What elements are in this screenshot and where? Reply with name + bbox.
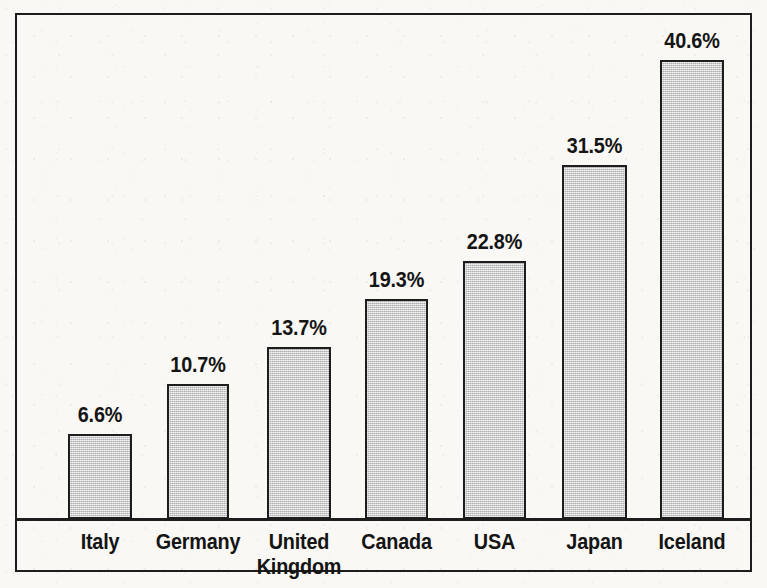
category-label-iceland: Iceland [631,529,753,554]
bar-value-label: 10.7% [143,354,253,376]
bar-value-label: 13.7% [243,317,355,339]
bar-germany [167,384,229,519]
x-axis-line [15,518,752,521]
bar-japan [562,165,627,519]
bar-united-kingdom [267,347,331,519]
bar-value-label: 19.3% [341,269,452,291]
bar-value-label: 22.8% [439,231,550,253]
category-label-line2: Kingdom [238,554,360,579]
chart-page: ItalyGermanyUnitedKingdomCanadaUSAJapanI… [0,0,767,588]
bar-italy [68,434,132,519]
bar-canada [365,299,428,519]
bar-value-label: 31.5% [538,135,651,157]
bar-iceland [660,60,724,519]
bar-value-label: 40.6% [636,30,748,52]
bar-value-label: 6.6% [44,404,156,426]
category-label-line1: Iceland [631,529,753,554]
bar-usa [463,261,526,519]
